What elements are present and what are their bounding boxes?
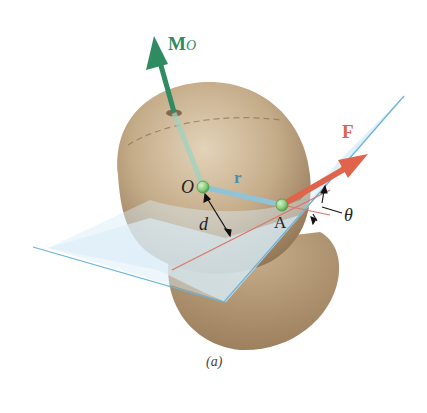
- position-vector-label: r: [234, 169, 242, 186]
- figure-caption: (a): [206, 355, 222, 369]
- moment-diagram: MO F O r A d θ (a): [0, 0, 427, 413]
- moment-label-main: M: [168, 33, 186, 54]
- moment-label-subscript: O: [186, 38, 196, 53]
- distance-label: d: [199, 215, 208, 233]
- force-label: F: [342, 122, 354, 141]
- point-a-marker: [276, 199, 288, 211]
- point-o-marker: [197, 181, 209, 193]
- diagram-canvas: [0, 0, 427, 413]
- moment-label: MO: [168, 34, 196, 53]
- origin-label: O: [181, 178, 194, 196]
- angle-label: θ: [344, 206, 353, 224]
- point-a-label: A: [274, 214, 286, 231]
